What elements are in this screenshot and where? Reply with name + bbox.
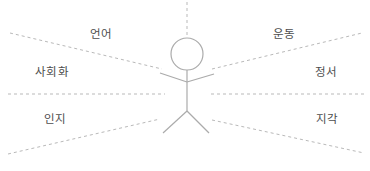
dashed-line-upper-left	[10, 33, 162, 69]
label-perception: 지각	[316, 110, 339, 126]
dashed-line-lower-left	[8, 119, 160, 154]
diagram-lines-layer	[0, 0, 370, 171]
stick-figure-right-arm	[187, 74, 214, 82]
stick-figure-left-leg	[163, 111, 187, 133]
stick-figure-left-arm	[160, 73, 187, 82]
label-socialization: 사회화	[35, 63, 70, 79]
label-emotion: 정서	[315, 63, 338, 79]
development-domains-diagram: 언어 운동 사회화 정서 인지 지각	[0, 0, 370, 171]
stick-figure-head	[171, 38, 203, 70]
dashed-line-lower-right	[212, 120, 364, 153]
label-motor: 운동	[273, 25, 296, 41]
stick-figure-right-leg	[187, 111, 209, 133]
label-language: 언어	[90, 25, 113, 41]
child-stick-figure-icon	[160, 38, 214, 133]
label-cognition: 인지	[44, 110, 67, 126]
